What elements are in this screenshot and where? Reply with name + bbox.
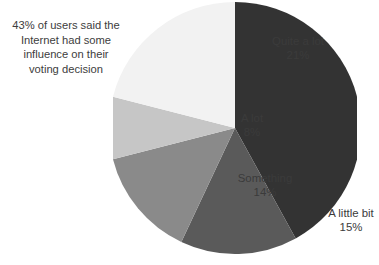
slice-label-a-lot: A lot 8%: [221, 111, 283, 139]
slice-value-nothing: 42%: [359, 97, 379, 111]
annotation-line-2: Internet had some: [2, 33, 130, 48]
slice-value-a-little-bit: 15%: [303, 220, 379, 234]
slice-name-nothing: Nothing: [359, 83, 379, 97]
slice-label-quite-a-lot: Quite a lot 21%: [247, 34, 349, 62]
chart-annotation-note: 43% of users said the Internet had some …: [2, 18, 130, 76]
pie-graphic: Quite a lot 21% Nothing 42% A little bit…: [113, 1, 357, 265]
slice-label-nothing: Nothing 42%: [359, 83, 379, 111]
slice-value-quite-a-lot: 21%: [247, 48, 349, 62]
slice-name-quite-a-lot: Quite a lot: [247, 34, 349, 48]
slice-value-a-lot: 8%: [221, 125, 283, 139]
annotation-line-3: influence on their: [2, 47, 130, 62]
slice-value-something: 14%: [217, 185, 313, 199]
slice-label-something: Something 14%: [217, 171, 313, 199]
annotation-line-1: 43% of users said the: [2, 18, 130, 33]
slice-name-something: Something: [217, 171, 313, 185]
slice-name-a-little-bit: A little bit: [303, 206, 379, 220]
slice-name-a-lot: A lot: [221, 111, 283, 125]
annotation-line-4: voting decision: [2, 62, 130, 77]
slice-label-a-little-bit: A little bit 15%: [303, 206, 379, 234]
